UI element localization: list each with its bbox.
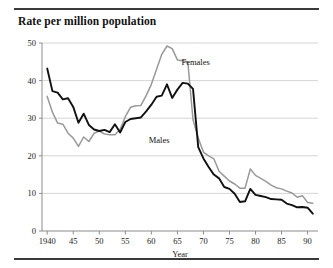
series-annotations-group: FemalesMales <box>149 57 210 145</box>
x-ticklabel-1955: 55 <box>121 236 130 246</box>
x-ticklabel-1970: 70 <box>199 236 208 246</box>
data-series-group <box>47 46 313 214</box>
y-ticklabel-30: 30 <box>28 113 37 123</box>
y-ticklabel-10: 10 <box>28 188 37 198</box>
y-ticklabel-40: 40 <box>28 76 37 86</box>
chart-title: Rate per million population <box>18 15 156 27</box>
x-ticklabel-1965: 65 <box>173 236 182 246</box>
x-ticklabel-1980: 80 <box>251 236 260 246</box>
y-ticklabel-20: 20 <box>28 151 37 161</box>
series-line-females <box>47 46 313 203</box>
chart-figure: Rate per million population 194045505560… <box>0 0 333 268</box>
plot-area: 194045505560657075808590 01020304050 Fem… <box>0 34 333 264</box>
gridlines-group <box>42 43 318 193</box>
x-ticklabel-1950: 50 <box>95 236 104 246</box>
y-ticklabel-50: 50 <box>28 38 37 48</box>
series-label-females: Females <box>181 57 209 67</box>
bottom-divider-rule <box>14 258 319 260</box>
series-line-males <box>47 69 313 214</box>
x-ticklabel-1940: 1940 <box>39 236 56 246</box>
x-ticklabel-1960: 60 <box>147 236 156 246</box>
line-chart-svg: 194045505560657075808590 01020304050 Fem… <box>0 34 333 264</box>
y-tick-group: 01020304050 <box>28 38 43 236</box>
top-divider-rule <box>14 8 319 10</box>
x-tick-group: 194045505560657075808590 <box>39 231 312 246</box>
x-ticklabel-1990: 90 <box>303 236 312 246</box>
x-ticklabel-1985: 85 <box>277 236 286 246</box>
y-ticklabel-0: 0 <box>32 226 36 236</box>
x-ticklabel-1975: 75 <box>225 236 234 246</box>
x-ticklabel-1945: 45 <box>69 236 78 246</box>
series-label-males: Males <box>149 135 170 145</box>
